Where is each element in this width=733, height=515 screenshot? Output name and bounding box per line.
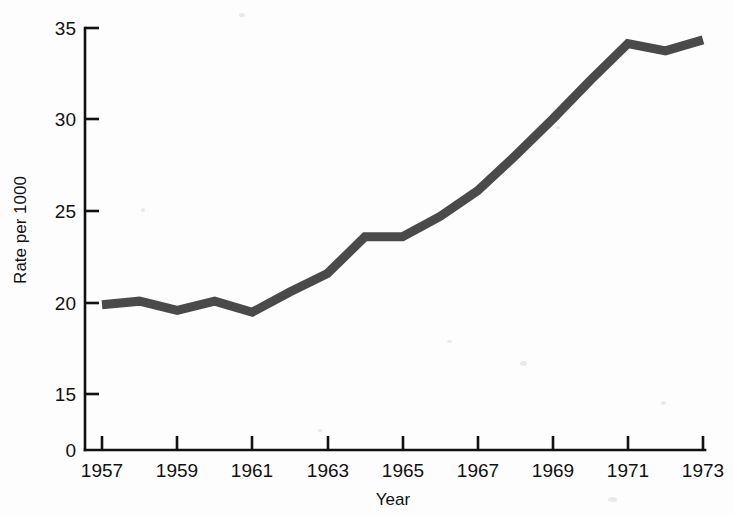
x-tick-label-1963: 1963 <box>307 460 349 481</box>
x-axis-title: Year <box>376 490 411 509</box>
x-tick-label-1957: 1957 <box>81 460 123 481</box>
y-tick-label-30: 30 <box>55 109 76 130</box>
chart-figure: 35 30 25 20 15 0 1957 1959 1961 1963 196… <box>0 0 733 515</box>
x-tick-label-1971: 1971 <box>607 460 649 481</box>
x-tick-label-1967: 1967 <box>457 460 499 481</box>
y-tick-label-0: 0 <box>65 440 76 461</box>
y-tick-label-35: 35 <box>55 18 76 39</box>
y-tick-label-15: 15 <box>55 384 76 405</box>
x-tick-label-1961: 1961 <box>231 460 273 481</box>
y-tick-label-20: 20 <box>55 293 76 314</box>
x-tick-label-1959: 1959 <box>156 460 198 481</box>
line-chart: 35 30 25 20 15 0 1957 1959 1961 1963 196… <box>0 0 733 515</box>
x-tick-label-1973: 1973 <box>682 460 724 481</box>
data-series-line <box>102 40 703 312</box>
y-axis-title: Rate per 1000 <box>11 176 30 284</box>
y-tick-label-25: 25 <box>55 201 76 222</box>
x-tick-label-1965: 1965 <box>382 460 424 481</box>
x-tick-label-1969: 1969 <box>532 460 574 481</box>
